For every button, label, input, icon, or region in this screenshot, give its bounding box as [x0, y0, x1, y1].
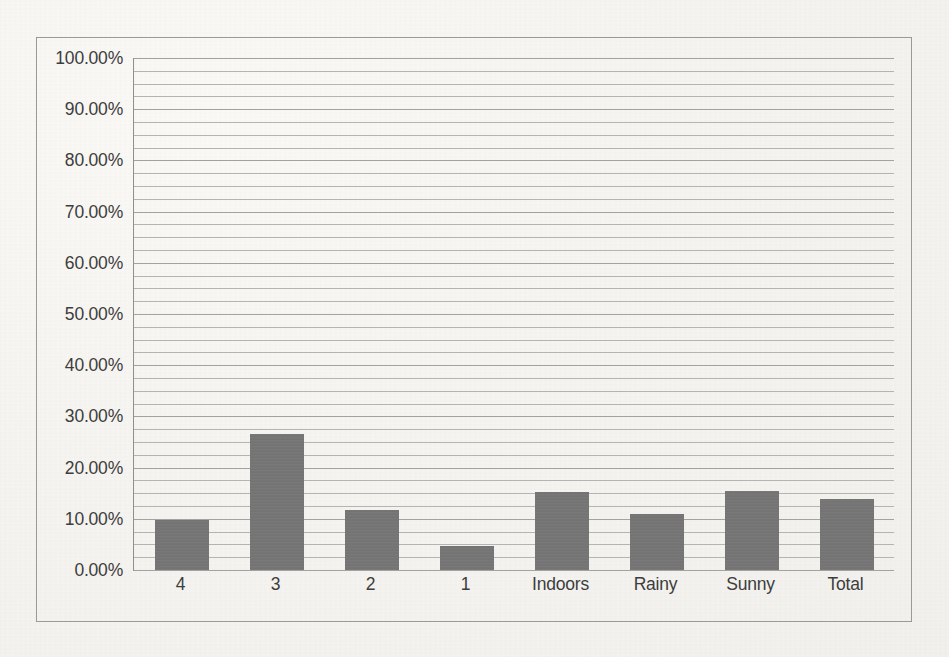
x-axis-tick-label: 2 [366, 574, 376, 595]
chart-figure: 0.00%10.00%20.00%30.00%40.00%50.00%60.00… [0, 0, 949, 657]
x-axis-tick-label: Indoors [532, 574, 589, 595]
bar-group [704, 58, 799, 570]
y-axis-tick-label: 50.00% [65, 304, 123, 325]
y-axis-tick-label: 60.00% [65, 252, 123, 273]
gridline [134, 570, 894, 571]
y-axis-tick-label: 100.00% [55, 48, 123, 69]
x-axis-tick-label: 4 [176, 574, 186, 595]
bar-group [799, 58, 894, 570]
bar[interactable] [250, 434, 304, 570]
bar[interactable] [535, 492, 589, 570]
y-axis-tick-label: 40.00% [65, 355, 123, 376]
x-axis-tick-label: 1 [461, 574, 471, 595]
x-axis-tick-label: 3 [271, 574, 281, 595]
bar[interactable] [440, 546, 494, 570]
bar-group [134, 58, 229, 570]
bar[interactable] [155, 520, 209, 570]
y-axis-tick-label: 0.00% [74, 560, 123, 581]
bar-group [514, 58, 609, 570]
bar-series [134, 58, 894, 570]
bar-group [419, 58, 514, 570]
bar-group [324, 58, 419, 570]
x-axis: 4321IndoorsRainySunnyTotal [133, 574, 893, 608]
y-axis-tick-label: 90.00% [65, 99, 123, 120]
bar[interactable] [725, 491, 779, 570]
bar-group [229, 58, 324, 570]
plot-area [133, 58, 894, 571]
y-axis-tick-label: 70.00% [65, 201, 123, 222]
y-axis-tick-label: 10.00% [65, 508, 123, 529]
y-axis-tick-label: 30.00% [65, 406, 123, 427]
bar[interactable] [820, 499, 874, 570]
x-axis-tick-label: Total [828, 574, 864, 595]
y-axis-tick-label: 20.00% [65, 457, 123, 478]
bar[interactable] [345, 510, 399, 570]
y-axis-tick-label: 80.00% [65, 150, 123, 171]
y-axis: 0.00%10.00%20.00%30.00%40.00%50.00%60.00… [36, 37, 133, 622]
bar[interactable] [630, 514, 684, 570]
x-axis-tick-label: Rainy [634, 574, 678, 595]
bar-group [609, 58, 704, 570]
x-axis-tick-label: Sunny [726, 574, 775, 595]
